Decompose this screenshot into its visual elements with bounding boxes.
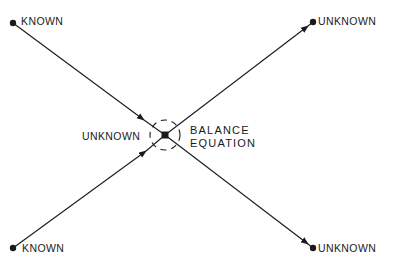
balance-equation-annotation: BALANCE EQUATION: [190, 124, 256, 150]
label-known-top: KNOWN: [21, 15, 63, 27]
node-center-junction: [162, 132, 169, 139]
label-unknown-top: UNKNOWN: [318, 15, 376, 27]
edge-center-to-unknown-top: [165, 22, 313, 135]
label-known-bottom: KNOWN: [22, 242, 64, 254]
node-known-top-dot: [10, 20, 16, 26]
label-unknown-center: UNKNOWN: [82, 130, 140, 142]
edge-known-top-to-center: [13, 23, 165, 135]
node-unknown-bottom-dot: [310, 245, 316, 251]
balance-line-2: EQUATION: [190, 137, 256, 150]
edge-known-bottom-to-center: [13, 135, 165, 248]
edge-center-to-unknown-bottom: [165, 135, 313, 248]
label-unknown-bottom: UNKNOWN: [318, 242, 376, 254]
node-known-bottom-dot: [10, 245, 16, 251]
node-unknown-top-dot: [310, 19, 316, 25]
balance-line-1: BALANCE: [190, 124, 256, 137]
